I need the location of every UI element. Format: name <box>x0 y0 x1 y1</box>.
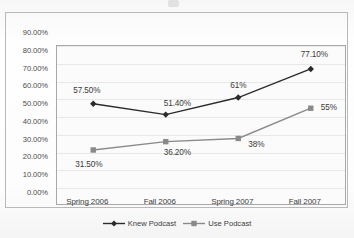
y-axis-tick-label: 80.00% <box>6 47 48 55</box>
legend-label: Knew Podcast <box>128 219 177 228</box>
data-label: 77.10% <box>301 50 328 59</box>
data-label: 36.20% <box>164 148 191 157</box>
diamond-marker-icon <box>103 219 125 228</box>
data-label: 38% <box>248 140 264 149</box>
series-layer <box>57 46 347 206</box>
y-axis-tick-label: 70.00% <box>6 65 48 73</box>
x-axis-tick-label: Fall 2007 <box>272 197 338 206</box>
data-point-marker <box>308 66 314 72</box>
legend-entry-knew-podcast[interactable]: Knew Podcast <box>103 219 177 228</box>
square-marker-icon <box>183 219 205 228</box>
data-point-marker <box>308 106 313 111</box>
y-axis-tick-label: 90.00% <box>6 29 48 37</box>
y-axis-tick-label: 10.00% <box>6 171 48 179</box>
data-point-marker <box>163 111 169 117</box>
series-line-knew-podcast <box>93 69 311 115</box>
data-label: 57.50% <box>73 86 100 95</box>
y-axis-tick-label: 60.00% <box>6 82 48 90</box>
legend-label: Use Podcast <box>208 219 251 228</box>
y-axis-tick-label: 0.00% <box>6 189 48 197</box>
data-point-marker <box>163 139 168 144</box>
data-label: 31.50% <box>75 160 102 169</box>
data-point-marker <box>91 147 96 152</box>
x-axis-tick-label: Spring 2007 <box>199 197 265 206</box>
data-label: 55% <box>321 103 337 112</box>
plot-area: 57.50%51.40%61%77.10%31.50%36.20%38%55% <box>56 45 346 205</box>
legend-entry-use-podcast[interactable]: Use Podcast <box>183 219 251 228</box>
data-label: 51.40% <box>164 99 191 108</box>
chart-legend: Knew PodcastUse Podcast <box>0 219 354 228</box>
data-point-marker <box>236 136 241 141</box>
series-line-use-podcast <box>93 108 311 150</box>
x-axis-tick-label: Fall 2006 <box>127 197 193 206</box>
y-axis-tick-label: 40.00% <box>6 118 48 126</box>
data-point-marker <box>90 101 96 107</box>
data-point-marker <box>235 94 241 100</box>
y-axis-tick-label: 30.00% <box>6 136 48 144</box>
y-axis-tick-label: 20.00% <box>6 153 48 161</box>
chart-frame: 90.00%80.00%70.00%60.00%50.00%40.00%30.0… <box>5 12 348 208</box>
x-axis-tick-label: Spring 2006 <box>54 197 120 206</box>
scan-artifact <box>168 0 179 7</box>
y-axis-tick-label: 50.00% <box>6 100 48 108</box>
data-label: 61% <box>230 81 246 90</box>
